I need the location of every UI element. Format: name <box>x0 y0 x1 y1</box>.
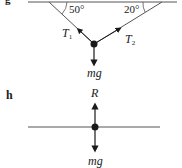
reaction-label: R <box>91 87 98 99</box>
weight-label-g: mg <box>87 67 102 79</box>
t1-symbol: T <box>62 26 69 40</box>
t2-subscript: 2 <box>132 39 136 47</box>
force-diagrams-canvas <box>0 0 182 168</box>
t2-symbol: T <box>125 32 132 46</box>
angle-label-20: 20° <box>124 4 139 15</box>
mass-point-h <box>92 124 99 131</box>
weight-label-h: mg <box>88 155 103 167</box>
angle-label-50: 50° <box>69 4 84 15</box>
diagram-h <box>28 106 160 149</box>
diagram-label-h: h <box>6 89 13 101</box>
diagram-g <box>28 2 177 63</box>
t1-label: T1 <box>62 27 72 41</box>
t1-subscript: 1 <box>69 33 73 41</box>
mass-point-g <box>91 41 98 48</box>
angle-arc-50 <box>62 2 67 14</box>
t2-arrow <box>94 29 119 44</box>
t2-label: T2 <box>125 33 135 47</box>
angle-arc-20 <box>143 2 145 12</box>
diagram-label-g: g <box>5 0 11 5</box>
